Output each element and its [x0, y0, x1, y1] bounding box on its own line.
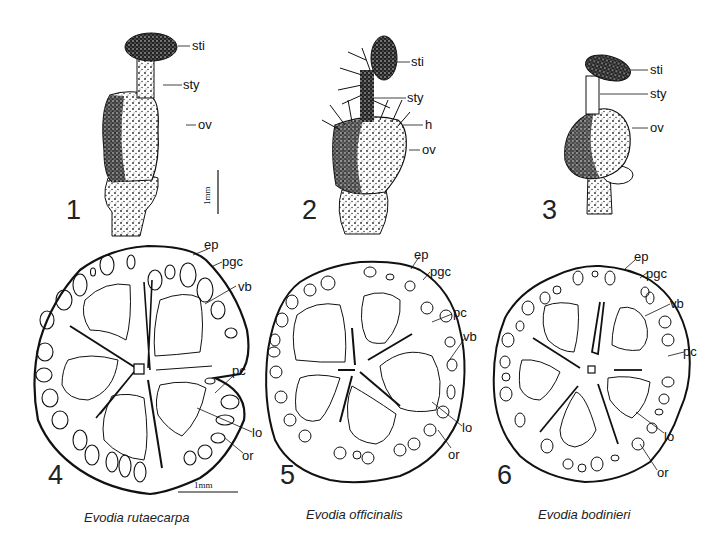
figure-artwork [0, 0, 725, 553]
label-oil-reservoir-6: or [657, 466, 669, 479]
panel-number-1: 1 [66, 197, 81, 224]
label-epidermis-6: ep [634, 250, 648, 263]
label-pgc-6: pgc [646, 267, 667, 280]
label-pc-4: pc [232, 364, 246, 377]
panel-number-5: 5 [280, 462, 295, 489]
label-epidermis-4: ep [204, 238, 218, 251]
caption-evodia-officinalis: Evodia officinalis [306, 507, 403, 522]
label-pgc-4: pgc [222, 255, 243, 268]
label-pc-6: pc [683, 345, 697, 358]
scale-label-1: 1mm [202, 186, 212, 205]
label-ovary-3: ov [650, 121, 664, 134]
pistil-drawing-2 [322, 36, 423, 234]
label-vascular-bundle-4: vb [238, 280, 252, 293]
label-pgc-5: pgc [430, 265, 451, 278]
label-oil-reservoir-4: or [242, 449, 254, 462]
label-oil-reservoir-5: or [448, 448, 460, 461]
label-vascular-bundle-6: vb [670, 297, 684, 310]
label-epidermis-5: ep [414, 248, 428, 261]
label-locule-6: lo [664, 430, 674, 443]
label-pc-5: pc [453, 306, 467, 319]
botanical-figure: 1 2 3 4 5 6 sti sty ov 1mm sti sty h ov … [0, 0, 725, 553]
panel-number-4: 4 [48, 462, 63, 489]
cross-section-6 [494, 260, 690, 482]
label-stigma-1: sti [192, 39, 205, 52]
label-hair-2: h [425, 118, 432, 131]
label-style-1: sty [183, 78, 200, 91]
caption-evodia-bodinieri: Evodia bodinieri [538, 507, 631, 522]
label-locule-4: lo [252, 426, 262, 439]
label-ovary-2: ov [422, 143, 436, 156]
panel-number-3: 3 [542, 197, 557, 224]
scale-label-4: 1mm [194, 480, 213, 490]
label-stigma-2: sti [411, 55, 424, 68]
label-locule-5: lo [462, 421, 472, 434]
panel-number-6: 6 [497, 462, 512, 489]
label-stigma-3: sti [650, 63, 663, 76]
label-vascular-bundle-5: vb [463, 330, 477, 343]
caption-evodia-rutaecarpa: Evodia rutaecarpa [84, 510, 190, 525]
cross-section-4 [34, 246, 252, 494]
cross-section-5 [266, 257, 465, 482]
label-style-3: sty [650, 87, 667, 100]
pistil-drawing-3 [565, 50, 648, 214]
pistil-drawing-1 [103, 33, 218, 236]
label-style-2: sty [407, 91, 424, 104]
label-ovary-1: ov [198, 118, 212, 131]
panel-number-2: 2 [302, 197, 317, 224]
